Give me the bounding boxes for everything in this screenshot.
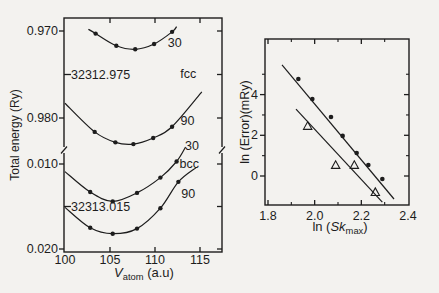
- data-point: [93, 31, 97, 35]
- data-point: [114, 44, 118, 48]
- x-tick-label: 1.8: [259, 209, 276, 223]
- data-point: [152, 42, 156, 46]
- data-point: [88, 226, 92, 230]
- data-point: [111, 199, 115, 203]
- data-point: [88, 190, 92, 194]
- data-point-circle: [354, 151, 359, 156]
- data-point-circle: [310, 97, 315, 102]
- data-point-circle: [380, 177, 385, 182]
- energy-reference-label: 32313.015: [71, 200, 130, 214]
- data-point-circle: [366, 163, 371, 168]
- y-tick-label: 0.980: [27, 111, 58, 125]
- figure-container: 1001051101150.9700.9800.0100.02032312.97…: [0, 0, 439, 293]
- data-point: [176, 180, 180, 184]
- energy-convergence-figure: 1001051101150.9700.9800.0100.02032312.97…: [0, 0, 439, 293]
- y-tick-label: 2: [251, 128, 258, 142]
- left-y-axis-title: Total energy (Ry): [8, 89, 22, 180]
- data-point: [174, 159, 178, 163]
- data-point-circle: [340, 134, 345, 139]
- phase-label-bcc: bcc: [179, 157, 198, 171]
- data-point: [111, 232, 115, 236]
- x-tick-label: 115: [190, 253, 210, 267]
- data-point-circle: [296, 77, 301, 82]
- series-label-bcc-90: 90: [181, 187, 195, 201]
- series-label-bcc-30: 30: [185, 139, 199, 153]
- right-y-axis-title: ln (Error)(mRy): [238, 80, 252, 163]
- data-point: [93, 130, 97, 134]
- data-point: [135, 226, 139, 230]
- data-point: [158, 175, 162, 179]
- data-point: [113, 140, 117, 144]
- y-tick-label: 0.010: [27, 157, 58, 171]
- series-label-fcc-30: 30: [168, 36, 182, 50]
- y-tick-label: 4: [251, 88, 258, 102]
- data-point: [170, 30, 174, 34]
- series-label-fcc-90: 90: [180, 114, 194, 128]
- data-point: [170, 125, 174, 129]
- data-point: [135, 191, 139, 195]
- phase-label-fcc: fcc: [180, 67, 196, 81]
- y-tick-label: 0.970: [27, 24, 58, 38]
- data-point: [158, 206, 162, 210]
- data-point: [133, 47, 137, 51]
- data-point: [131, 142, 135, 146]
- energy-reference-label: 32312.975: [71, 68, 130, 82]
- data-point-circle: [329, 115, 334, 120]
- y-tick-label: 0: [251, 169, 258, 183]
- x-tick-label: 2.4: [399, 209, 416, 223]
- data-point: [151, 136, 155, 140]
- y-tick-label: 0.020: [27, 242, 58, 256]
